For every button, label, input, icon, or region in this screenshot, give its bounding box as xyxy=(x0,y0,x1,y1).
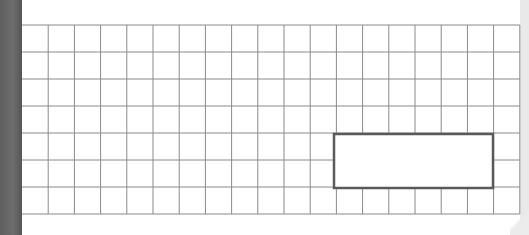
grid-diagram xyxy=(0,0,529,235)
highlighted-rectangle xyxy=(334,134,493,188)
